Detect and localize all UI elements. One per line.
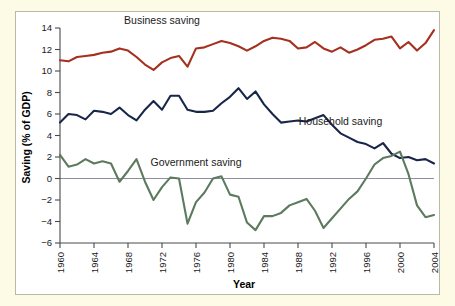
y-axis-tick-label: 4 <box>47 130 52 141</box>
x-axis-tick-label: 1984 <box>259 252 270 273</box>
y-axis-tick-label: 14 <box>41 22 52 33</box>
series-line-business-saving <box>60 30 434 70</box>
series-label-government-saving: Government saving <box>150 156 241 168</box>
x-axis-tick-label: 1988 <box>293 252 304 273</box>
x-axis-tick-label: 1960 <box>55 252 66 273</box>
y-axis-tick-label: 12 <box>41 44 52 55</box>
x-axis-tick-label: 1980 <box>225 252 236 273</box>
y-axis-tick-label: 8 <box>47 87 52 98</box>
x-axis-tick-label: 1972 <box>157 252 168 273</box>
x-axis-tick-label: 1996 <box>361 252 372 273</box>
chart-figure: 14121086420−2−4−619601964196819721976198… <box>15 11 440 295</box>
series-label-household-saving: Household saving <box>299 115 383 127</box>
y-axis-tick-label: 10 <box>41 65 52 76</box>
x-axis-tick-label: 1964 <box>89 252 100 273</box>
series-line-government-saving <box>60 152 434 230</box>
x-axis-tick-label: 2000 <box>395 252 406 273</box>
x-axis-tick-label: 1992 <box>327 252 338 273</box>
y-axis-title: Saving (% of GDP) <box>20 91 32 183</box>
x-axis-tick-label: 2004 <box>429 252 439 273</box>
y-axis-tick-label: 2 <box>47 151 52 162</box>
x-axis-title: Year <box>233 278 255 290</box>
y-axis-tick-label: −2 <box>41 194 52 205</box>
y-axis-tick-label: −6 <box>41 237 52 248</box>
x-axis-tick-label: 1976 <box>191 252 202 273</box>
x-axis-tick-label: 1968 <box>123 252 134 273</box>
y-axis-tick-label: 6 <box>47 108 52 119</box>
y-axis-tick-label: −4 <box>41 216 52 227</box>
series-label-business-saving: Business saving <box>124 14 200 26</box>
line-chart-svg: 14121086420−2−4−619601964196819721976198… <box>16 12 439 294</box>
y-axis-tick-label: 0 <box>47 173 52 184</box>
chart-plot-area: 14121086420−2−4−619601964196819721976198… <box>16 12 439 294</box>
